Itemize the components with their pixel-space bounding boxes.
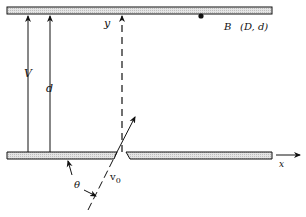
theta-arrow-lower bbox=[84, 190, 96, 196]
point-b-dot bbox=[198, 13, 203, 18]
parallel-plate-diagram: y B (D, d) V d θ v0 x bbox=[0, 0, 306, 217]
y-axis-label: y bbox=[103, 17, 111, 30]
lower-plate-left bbox=[7, 152, 117, 159]
velocity-label: v0 bbox=[109, 171, 121, 185]
upper-plate bbox=[7, 7, 272, 14]
potential-label: V bbox=[24, 67, 33, 80]
lower-plate-right bbox=[126, 152, 272, 159]
point-b-coords: (D, d) bbox=[240, 21, 268, 32]
point-b-label: B bbox=[223, 21, 231, 32]
separation-label: d bbox=[46, 82, 53, 95]
x-axis-label: x bbox=[279, 159, 284, 169]
theta-arrow-upper bbox=[68, 161, 72, 175]
angle-theta-label: θ bbox=[74, 179, 80, 190]
velocity-arrow bbox=[118, 117, 135, 150]
